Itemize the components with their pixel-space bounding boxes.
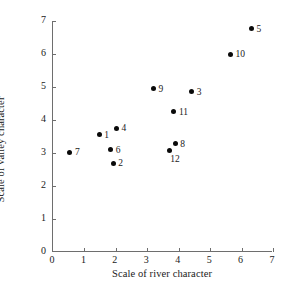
y-tick-label: 7 — [30, 14, 46, 25]
data-point-label: 7 — [75, 148, 80, 158]
x-tick-mark — [116, 248, 117, 252]
x-tick-label: 4 — [168, 254, 188, 265]
data-point — [111, 161, 116, 166]
y-tick-label: 2 — [30, 179, 46, 190]
y-tick-mark — [52, 87, 56, 88]
x-tick-label: 6 — [231, 254, 251, 265]
data-point — [173, 141, 178, 146]
data-point-label: 1 — [104, 131, 109, 141]
x-tick-mark — [84, 248, 85, 252]
data-point-label: 11 — [179, 108, 188, 118]
y-tick-label: 5 — [30, 80, 46, 91]
x-tick-label: 2 — [105, 254, 125, 265]
data-point-label: 9 — [159, 85, 164, 95]
data-point — [114, 126, 119, 131]
data-point — [67, 150, 72, 155]
x-tick-mark — [242, 248, 243, 252]
y-tick-mark — [52, 186, 56, 187]
x-tick-label: 1 — [73, 254, 93, 265]
data-point-label: 8 — [180, 140, 185, 150]
x-tick-label: 7 — [262, 254, 282, 265]
y-tick-mark — [52, 219, 56, 220]
data-point-label: 2 — [118, 159, 123, 169]
x-tick-mark — [179, 248, 180, 252]
y-tick-mark — [52, 21, 56, 22]
data-point-label: 6 — [116, 146, 121, 156]
y-tick-mark — [52, 153, 56, 154]
y-axis-label: Scale of valley character — [0, 0, 34, 299]
data-point-label: 3 — [197, 88, 202, 98]
x-tick-mark — [210, 248, 211, 252]
y-tick-label: 4 — [30, 113, 46, 124]
y-tick-mark — [52, 120, 56, 121]
data-point-label: 4 — [121, 124, 126, 134]
data-point — [167, 148, 172, 153]
data-point-label: 12 — [170, 155, 180, 165]
y-tick-label: 3 — [30, 146, 46, 157]
data-point-label: 10 — [236, 50, 246, 60]
y-tick-mark — [52, 54, 56, 55]
data-point — [228, 52, 233, 57]
y-tick-label: 1 — [30, 212, 46, 223]
x-axis-label: Scale of river character — [52, 268, 272, 279]
x-tick-mark — [273, 248, 274, 252]
y-tick-label: 0 — [30, 245, 46, 256]
x-tick-label: 5 — [199, 254, 219, 265]
data-point-label: 5 — [257, 25, 262, 35]
x-tick-label: 3 — [136, 254, 156, 265]
scatter-plot-figure: Scale of valley character Scale of river… — [0, 0, 293, 299]
y-tick-label: 6 — [30, 47, 46, 58]
x-tick-mark — [147, 248, 148, 252]
